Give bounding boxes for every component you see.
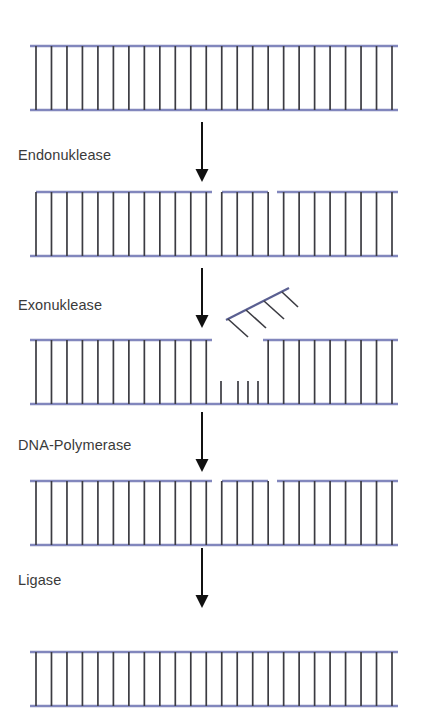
- fragment-rung: [228, 319, 248, 337]
- filled-strand-after-polymerase: [30, 481, 398, 545]
- repaired-strand-after-ligase: [30, 652, 398, 706]
- arrow-head: [196, 459, 209, 472]
- fragment-rung: [246, 310, 266, 328]
- excised-fragment-layer: [226, 288, 298, 337]
- dna-rows-layer: [30, 46, 398, 706]
- released-dna-fragment: [226, 288, 298, 337]
- step-exonuklease-label: Exonuklease: [18, 297, 102, 313]
- step-endonuclease-label: Endonuklease: [18, 147, 111, 163]
- process-arrow: [196, 268, 209, 328]
- process-arrow: [196, 122, 209, 182]
- fragment-rung: [282, 292, 298, 307]
- arrow-head: [196, 169, 209, 182]
- gapped-strand-after-exonuclease: [30, 340, 398, 404]
- step-ligase-label: Ligase: [18, 572, 61, 588]
- dna-repair-figure: EndonukleaseExonukleaseDNA-PolymeraseLig…: [0, 0, 421, 728]
- step-dna-polymerase-label: DNA-Polymerase: [18, 437, 131, 453]
- step-labels-layer: EndonukleaseExonukleaseDNA-PolymeraseLig…: [18, 147, 131, 588]
- process-arrow: [196, 548, 209, 608]
- process-arrow: [196, 412, 209, 472]
- dna-repair-diagram: EndonukleaseExonukleaseDNA-PolymeraseLig…: [0, 0, 421, 728]
- arrow-head: [196, 315, 209, 328]
- nicked-strand-after-endonuclease: [30, 192, 398, 256]
- arrow-head: [196, 595, 209, 608]
- intact-double-strand: [30, 46, 398, 110]
- fragment-rung: [264, 301, 284, 319]
